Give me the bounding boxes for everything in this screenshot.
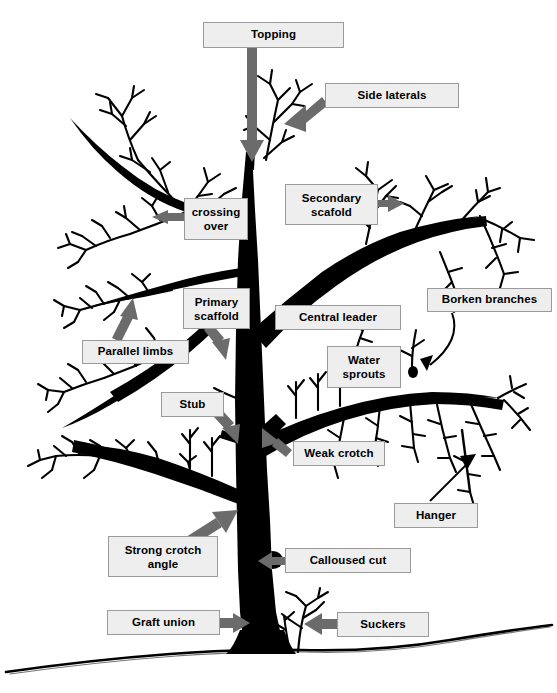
side-laterals-arrow (284, 97, 328, 132)
tree-pruning-diagram: Topping Side laterals Secondary scafold … (0, 0, 557, 693)
label-topping[interactable]: Topping (203, 22, 344, 48)
label-graft-union[interactable]: Graft union (107, 610, 220, 635)
label-stub[interactable]: Stub (161, 392, 224, 417)
suckers-arrow (304, 613, 338, 635)
crossing-over-arrow (152, 210, 185, 224)
topping-arrow (240, 48, 264, 162)
label-central-leader[interactable]: Central leader (275, 305, 401, 330)
label-calloused-cut[interactable]: Calloused cut (285, 548, 411, 573)
label-side-laterals[interactable]: Side laterals (325, 83, 459, 108)
label-strong-crotch-angle[interactable]: Strong crotch angle (108, 536, 218, 577)
label-crossing-over[interactable]: crossing over (184, 198, 248, 240)
label-water-sprouts[interactable]: Water sprouts (327, 346, 401, 388)
parallel-limbs-arrow (112, 298, 138, 342)
label-borken-branches[interactable]: Borken branches (427, 288, 552, 312)
label-primary-scaffold[interactable]: Primary scaffold (183, 288, 250, 329)
primary-scaffold-arrow (204, 324, 230, 360)
label-hanger[interactable]: Hanger (394, 503, 478, 528)
label-suckers[interactable]: Suckers (337, 612, 429, 637)
left-lower-limb-thick (72, 440, 243, 505)
label-weak-crotch[interactable]: Weak crotch (293, 441, 385, 466)
label-parallel-limbs[interactable]: Parallel limbs (82, 340, 189, 364)
label-secondary-scafold[interactable]: Secondary scafold (285, 184, 378, 225)
borken-branches-leader (420, 313, 454, 371)
